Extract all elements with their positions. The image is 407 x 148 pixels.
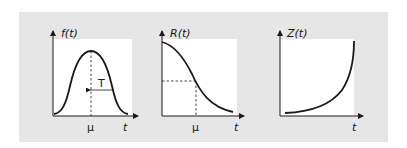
x-axis-label: t	[352, 121, 357, 134]
diagram-svg: f(t) T μ t R(t) μ t Z(t) t	[0, 0, 407, 148]
x-axis-label: t	[234, 121, 239, 134]
plot-pdf: f(t) T μ t	[53, 27, 138, 134]
plot-area	[162, 39, 237, 116]
plot-area	[280, 39, 354, 116]
mean-label: μ	[87, 121, 94, 134]
plot-reliability: R(t) μ t	[162, 27, 244, 134]
plot-hazard: Z(t) t	[280, 27, 363, 134]
y-axis-label: f(t)	[61, 27, 78, 40]
y-axis-label: R(t)	[170, 27, 191, 40]
y-axis-label: Z(t)	[286, 27, 307, 40]
x-axis-label: t	[123, 121, 128, 134]
annotation-label: T	[97, 77, 105, 90]
mean-label: μ	[192, 121, 199, 134]
